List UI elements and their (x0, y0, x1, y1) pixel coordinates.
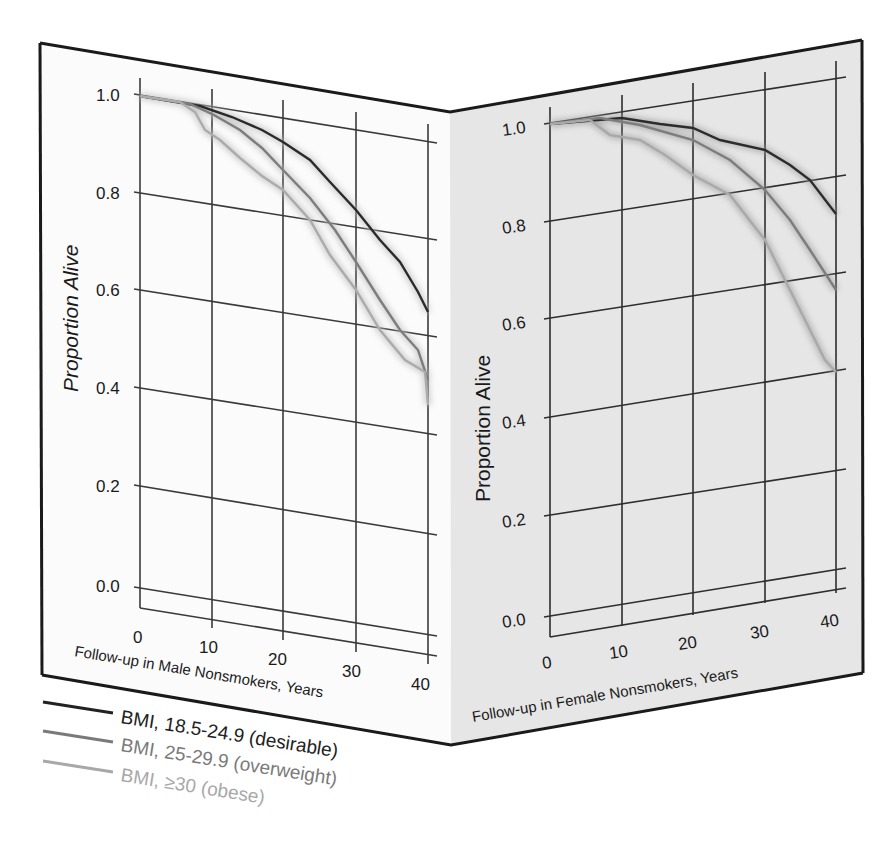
right-y-axis-label: Proportion Alive (471, 355, 494, 502)
left-y-tick-0.0: 0.0 (96, 577, 120, 596)
left-y-tick-0.4: 0.4 (96, 379, 120, 398)
right-y-tick-1.0: 1.0 (501, 118, 527, 140)
left-x-tick-20: 20 (268, 650, 287, 669)
left-y-axis-label: Proportion Alive (59, 245, 82, 392)
left-y-tick-0.2: 0.2 (96, 477, 120, 496)
right-x-tick-20: 20 (677, 633, 698, 654)
left-x-tick-0: 0 (133, 628, 142, 647)
panel-outline-right (862, 40, 863, 673)
right-x-tick-40: 40 (819, 611, 840, 632)
left-y-tick-0.8: 0.8 (96, 184, 120, 203)
panel-outline-left (40, 43, 42, 675)
left-x-tick-10: 10 (199, 638, 218, 657)
legend-swatch-obese (43, 761, 113, 772)
legend-swatch-overweight (43, 731, 113, 742)
left-x-tick-30: 30 (342, 662, 361, 681)
right-y-tick-0.4: 0.4 (501, 411, 527, 433)
right-panel (450, 40, 863, 745)
right-y-tick-0.6: 0.6 (501, 313, 527, 335)
folded-survival-chart: 1.0 0.8 0.6 0.4 0.2 0.0 0 10 20 30 40 Fo… (0, 0, 896, 844)
left-y-tick-1.0: 1.0 (96, 86, 120, 105)
right-y-tick-0.2: 0.2 (501, 510, 527, 532)
left-y-tick-0.6: 0.6 (96, 281, 120, 300)
right-x-tick-30: 30 (749, 622, 770, 643)
right-y-tick-0.8: 0.8 (501, 216, 527, 238)
legend-swatch-desirable (43, 702, 113, 713)
right-x-tick-10: 10 (608, 642, 629, 663)
left-x-tick-40: 40 (411, 675, 430, 694)
right-y-tick-0.0: 0.0 (501, 610, 527, 632)
